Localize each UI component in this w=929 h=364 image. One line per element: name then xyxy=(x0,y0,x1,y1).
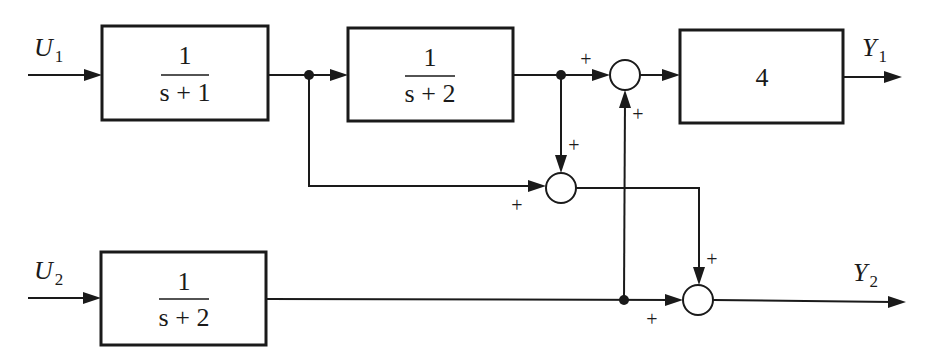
block-g4: 1 s + 2 xyxy=(101,252,266,345)
block-g3: 4 xyxy=(680,30,843,123)
wire-y2 xyxy=(713,300,892,302)
arrow-icon xyxy=(83,292,101,304)
sign-s3-left: + xyxy=(646,308,657,330)
arrow-icon xyxy=(528,180,546,192)
arrow-icon xyxy=(693,267,705,285)
arrow-icon xyxy=(330,69,348,81)
arrow-icon xyxy=(619,90,631,108)
block-g3-gain: 4 xyxy=(756,63,769,92)
arrow-icon xyxy=(555,155,567,173)
label-y1: Y1 xyxy=(862,33,887,66)
input-u2: U2 xyxy=(28,256,101,304)
arrow-icon xyxy=(84,69,102,81)
input-u1: U1 xyxy=(28,33,102,81)
block-g1: 1 s + 1 xyxy=(102,26,268,120)
arrow-icon xyxy=(884,71,902,83)
arrow-icon xyxy=(665,294,683,306)
sign-s2-left: + xyxy=(511,194,522,216)
wire-s2-s3 xyxy=(576,188,699,277)
sign-s1-bottom: + xyxy=(632,103,643,125)
block-g4-numerator: 1 xyxy=(178,267,191,296)
arrow-icon xyxy=(888,296,906,308)
summing-junction-s2 xyxy=(546,173,576,203)
block-g2-numerator: 1 xyxy=(424,43,437,72)
sign-s3-top: + xyxy=(706,248,717,270)
block-g2-denominator: s + 2 xyxy=(405,79,456,108)
block-g2: 1 s + 2 xyxy=(348,28,513,121)
block-g4-denominator: s + 2 xyxy=(159,303,210,332)
wire-g4-s3 xyxy=(266,299,675,300)
arrow-icon xyxy=(592,69,610,81)
summing-junction-s1 xyxy=(610,60,640,90)
block-g1-denominator: s + 1 xyxy=(160,78,211,107)
arrow-icon xyxy=(662,69,680,81)
label-y2: Y2 xyxy=(853,258,878,291)
label-u1: U1 xyxy=(34,33,63,66)
block-diagram: U1 1 s + 1 + 1 s + 2 + + 4 Y1 xyxy=(0,0,929,364)
sign-s2-top: + xyxy=(568,134,579,156)
summing-junction-s3 xyxy=(683,285,713,315)
sign-s1-left: + xyxy=(580,48,591,70)
block-g1-numerator: 1 xyxy=(179,41,192,70)
label-u2: U2 xyxy=(34,256,63,289)
wire-g4-s1 xyxy=(624,98,625,300)
